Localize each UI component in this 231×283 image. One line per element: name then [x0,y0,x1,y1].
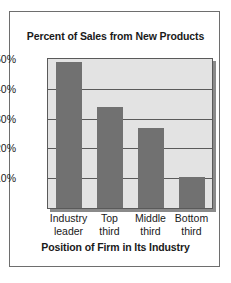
y-axis-tick-label: 20% [0,142,16,154]
chart-panel: Percent of Sales from New Products Posit… [9,11,220,267]
category-label-line-2: third [89,225,130,238]
x-axis-category-label: Middlethird [130,212,171,237]
category-label-line-1: Top [101,212,118,224]
bar [56,62,82,208]
category-label-line-2: leader [48,225,89,238]
bar [97,107,123,208]
bar [179,177,205,208]
y-axis-tick-label: 50% [0,53,16,65]
bar [138,128,164,208]
x-axis-category-label: Bottomthird [171,212,212,237]
y-axis-tick-label: 30% [0,113,16,125]
category-label-line-2: third [171,225,212,238]
y-axis-tick-label: 40% [0,83,16,95]
chart-figure: Percent of Sales from New Products Posit… [0,0,231,283]
category-label-line-1: Industry [50,212,87,224]
y-axis-tick-label: 10% [0,172,16,184]
x-axis-title: Position of Firm in Its Industry [10,241,221,253]
x-axis-category-label: Topthird [89,212,130,237]
category-label-line-2: third [130,225,171,238]
category-label-line-1: Middle [135,212,166,224]
category-label-line-1: Bottom [175,212,208,224]
x-axis-category-label: Industryleader [48,212,89,237]
chart-title: Percent of Sales from New Products [10,30,221,42]
plot-area [47,58,213,209]
